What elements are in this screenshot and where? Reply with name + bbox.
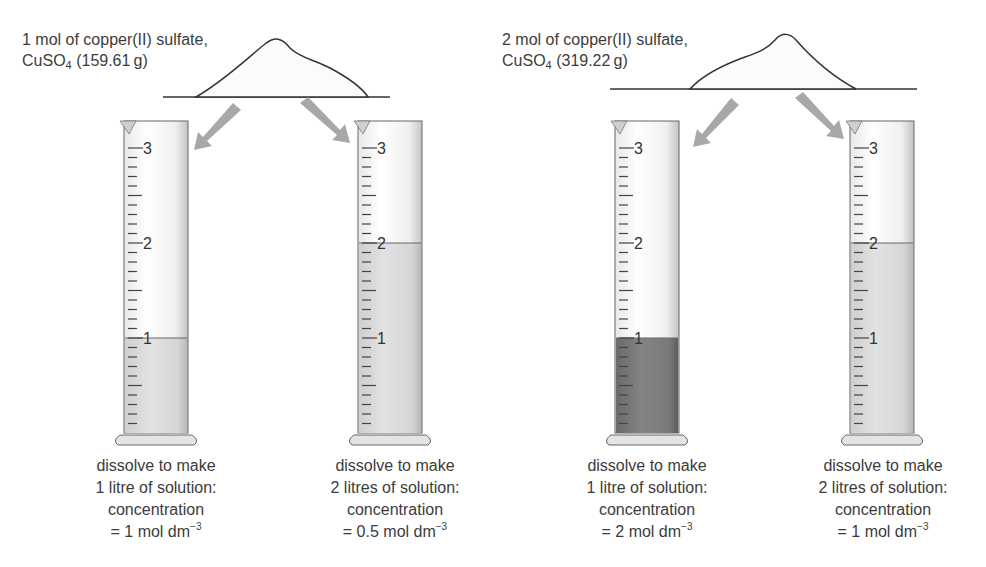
caption-line: dissolve to make (783, 455, 983, 477)
exponent: −3 (917, 521, 928, 532)
exponent: −3 (681, 521, 692, 532)
caption-line: dissolve to make (56, 455, 256, 477)
concentration-text: = 1 mol dm (838, 523, 918, 540)
arrow-down-left-icon (693, 98, 739, 147)
caption-line: concentration (295, 499, 495, 521)
scale-label-2: 2 (143, 235, 152, 252)
scale-label-3: 3 (869, 140, 878, 157)
caption-cyl-3: dissolve to make 1 litre of solution: co… (547, 455, 747, 543)
concentration-text: = 0.5 mol dm (343, 523, 436, 540)
caption-line: concentration (56, 499, 256, 521)
scale-label-1: 1 (143, 330, 152, 347)
caption-cyl-1: dissolve to make 1 litre of solution: co… (56, 455, 256, 543)
measuring-cylinder-3: 321 (607, 121, 688, 445)
arrow-down-right-icon (300, 97, 350, 143)
scale-label-3: 3 (377, 140, 386, 157)
exponent: −3 (436, 521, 447, 532)
scale-label-2: 2 (869, 235, 878, 252)
exponent: −3 (190, 521, 201, 532)
caption-line: 2 litres of solution: (783, 477, 983, 499)
caption-line: 2 litres of solution: (295, 477, 495, 499)
scale-label-3: 3 (634, 140, 643, 157)
scale-label-3: 3 (143, 140, 152, 157)
scale-label-2: 2 (377, 235, 386, 252)
concentration-value: = 1 mol dm−3 (56, 521, 256, 543)
measuring-cylinder-4: 321 (842, 121, 923, 445)
scale-label-1: 1 (869, 330, 878, 347)
scale-label-1: 1 (634, 330, 643, 347)
caption-line: concentration (547, 499, 747, 521)
caption-line: 1 litre of solution: (547, 477, 747, 499)
scale-label-2: 2 (634, 235, 643, 252)
arrow-down-left-icon (194, 103, 241, 150)
arrow-down-right-icon (795, 92, 844, 139)
powder-pile-right (610, 34, 917, 89)
caption-cyl-4: dissolve to make 2 litres of solution: c… (783, 455, 983, 543)
caption-line: dissolve to make (295, 455, 495, 477)
caption-cyl-2: dissolve to make 2 litres of solution: c… (295, 455, 495, 543)
concentration-value: = 1 mol dm−3 (783, 521, 983, 543)
caption-line: dissolve to make (547, 455, 747, 477)
caption-line: concentration (783, 499, 983, 521)
measuring-cylinder-1: 321 (116, 121, 197, 445)
scale-label-1: 1 (377, 330, 386, 347)
concentration-value: = 2 mol dm−3 (547, 521, 747, 543)
concentration-value: = 0.5 mol dm−3 (295, 521, 495, 543)
concentration-text: = 1 mol dm (111, 523, 191, 540)
concentration-text: = 2 mol dm (602, 523, 682, 540)
measuring-cylinder-2: 321 (350, 121, 431, 445)
powder-pile-left (163, 39, 390, 97)
arrows (194, 92, 844, 150)
caption-line: 1 litre of solution: (56, 477, 256, 499)
